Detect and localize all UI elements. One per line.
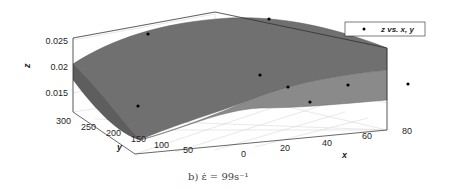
x-axis-label: x (341, 150, 348, 160)
surface-plot: 0.025 0.02 0.015 z 300 250 200 150 100 5… (0, 0, 450, 189)
legend: z vs. x, y (345, 22, 425, 36)
svg-text:z vs. x, y: z vs. x, y (380, 25, 414, 34)
svg-text:20: 20 (280, 143, 290, 153)
svg-text:0.025: 0.025 (45, 36, 68, 46)
y-axis-label: y (116, 142, 123, 152)
svg-text:0.015: 0.015 (45, 88, 68, 98)
svg-text:0.02: 0.02 (50, 62, 68, 72)
svg-text:200: 200 (106, 128, 121, 138)
svg-text:150: 150 (131, 134, 146, 144)
figure-caption: b) ε̇ = 99s⁻¹ (188, 171, 249, 182)
svg-text:300: 300 (56, 116, 71, 126)
svg-text:250: 250 (81, 122, 96, 132)
svg-text:0: 0 (241, 149, 246, 159)
svg-text:40: 40 (322, 138, 332, 148)
svg-text:80: 80 (402, 126, 412, 136)
z-axis-ticks: 0.025 0.02 0.015 (45, 36, 68, 98)
z-axis-label: z (22, 63, 32, 69)
legend-marker-icon (363, 28, 366, 31)
svg-text:60: 60 (362, 131, 372, 141)
svg-text:100: 100 (154, 140, 169, 150)
svg-text:50: 50 (183, 145, 193, 155)
x-axis-ticks: 0 20 40 60 80 (241, 126, 412, 159)
